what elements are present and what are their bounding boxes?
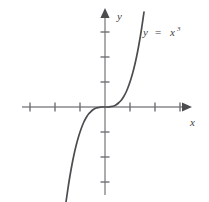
equation-base: x — [169, 26, 175, 38]
equation-exponent: 3 — [176, 25, 181, 33]
equation-annotation: y = x 3 — [142, 25, 181, 38]
y-axis-arrowhead-icon — [100, 8, 109, 18]
equation-lhs: y — [142, 26, 148, 38]
y-axis-label: y — [116, 10, 122, 22]
x-axis-arrowhead-icon — [182, 102, 192, 111]
coordinate-plane-svg: y x y = x 3 — [0, 0, 209, 202]
equation-operator: = — [155, 26, 161, 38]
y-axis-group — [100, 8, 109, 195]
cubic-function-figure: y x y = x 3 — [0, 0, 209, 202]
x-axis-label: x — [189, 116, 195, 128]
